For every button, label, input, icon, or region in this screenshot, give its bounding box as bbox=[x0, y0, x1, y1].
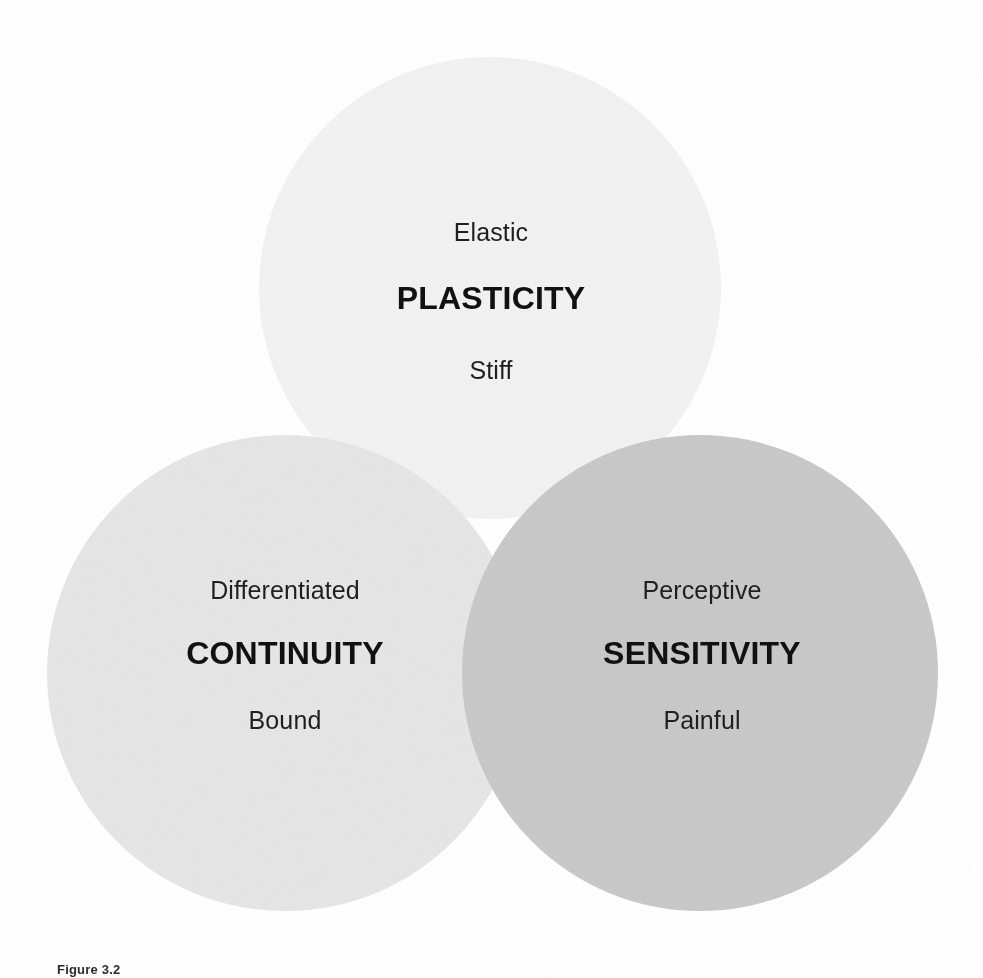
plasticity-pole-bottom: Stiff bbox=[341, 358, 641, 383]
venn-label-sensitivity: Perceptive SENSITIVITY Painful bbox=[552, 578, 852, 733]
venn-diagram: Elastic PLASTICITY Stiff Differentiated … bbox=[0, 0, 983, 978]
venn-circle-group bbox=[47, 57, 938, 911]
sensitivity-pole-bottom: Painful bbox=[552, 708, 852, 733]
venn-label-plasticity: Elastic PLASTICITY Stiff bbox=[341, 220, 641, 383]
plasticity-pole-top: Elastic bbox=[341, 220, 641, 245]
continuity-title: CONTINUITY bbox=[135, 637, 435, 669]
figure-root: Elastic PLASTICITY Stiff Differentiated … bbox=[0, 0, 983, 978]
continuity-pole-bottom: Bound bbox=[135, 708, 435, 733]
continuity-pole-top: Differentiated bbox=[135, 578, 435, 603]
figure-caption: Figure 3.2 bbox=[57, 962, 120, 978]
sensitivity-title: SENSITIVITY bbox=[552, 637, 852, 669]
venn-label-continuity: Differentiated CONTINUITY Bound bbox=[135, 578, 435, 733]
venn-circles-svg bbox=[0, 0, 983, 978]
plasticity-title: PLASTICITY bbox=[341, 282, 641, 314]
sensitivity-pole-top: Perceptive bbox=[552, 578, 852, 603]
